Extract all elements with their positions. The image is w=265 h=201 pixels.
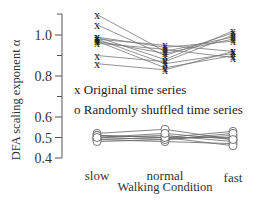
y-tick-label: 1.0 — [35, 28, 53, 43]
plot-area: xxxxxxxxxxxxxxxxxxxxxxxxxxxxxxxxx — [93, 8, 237, 150]
y-tick-label: 0.5 — [35, 131, 53, 146]
y-tick-label: 0.8 — [35, 69, 53, 84]
legend-original: x Original time series — [74, 82, 186, 97]
y-tick-label: 0.6 — [35, 110, 53, 125]
x-category-label: slow — [85, 168, 110, 183]
shuffled-point — [161, 129, 169, 137]
original-point: x — [94, 57, 100, 71]
y-axis-title: DFA scaling exponent α — [9, 39, 23, 160]
shuffled-point — [229, 136, 237, 144]
shuffled-point — [93, 134, 101, 142]
x-axis-title: Walking Condition — [117, 180, 213, 194]
original-point: x — [230, 44, 236, 58]
original-point: x — [230, 28, 236, 42]
original-point: x — [162, 63, 168, 77]
dfa-chart: xxxxxxxxxxxxxxxxxxxxxxxxxxxxxxxxx 0.40.5… — [0, 0, 265, 201]
legend-shuffled: o Randomly shuffled time series — [74, 102, 243, 117]
y-tick-label: 0.4 — [35, 151, 53, 166]
x-category-label: fast — [224, 170, 243, 185]
